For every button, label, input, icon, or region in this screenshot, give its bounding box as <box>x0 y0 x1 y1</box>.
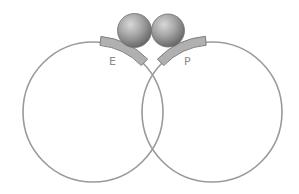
diagram-canvas: E P <box>0 0 299 194</box>
E-label: E <box>109 55 116 68</box>
right-sphere <box>152 14 185 47</box>
left-sphere <box>118 14 152 48</box>
P-label: P <box>184 55 191 68</box>
